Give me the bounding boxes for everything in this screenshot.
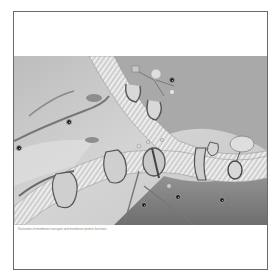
label-marker xyxy=(66,119,72,125)
label-marker xyxy=(175,194,181,200)
label-marker xyxy=(169,77,175,83)
figure-caption: Illustration of membrane transport and m… xyxy=(18,227,107,231)
membrane-diagram-svg xyxy=(14,56,267,225)
label-marker xyxy=(16,145,22,151)
label-marker xyxy=(141,202,147,208)
membrane-illustration xyxy=(14,56,267,225)
label-marker xyxy=(219,197,225,203)
